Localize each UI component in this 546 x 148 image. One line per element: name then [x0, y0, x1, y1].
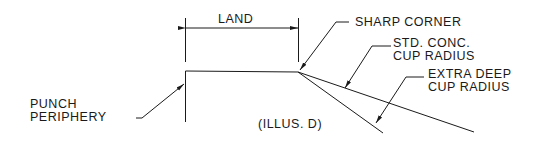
- illustration-d-diagram: LAND SHARP CORNER STD. CONC. CUP RADIUS …: [0, 0, 546, 148]
- std-conc-leader: [345, 46, 391, 88]
- land-top-line: [186, 71, 299, 72]
- sharp-corner-label: SHARP CORNER: [355, 16, 461, 29]
- sharp-corner-leader: [300, 22, 349, 70]
- std-conc-label-line2: CUP RADIUS: [393, 50, 475, 63]
- punch-periphery-label-line2: PERIPHERY: [30, 111, 107, 124]
- extra-deep-label-line2: CUP RADIUS: [428, 81, 510, 94]
- illustration-caption: (ILLUS. D): [258, 118, 322, 131]
- extra-deep-leader: [376, 77, 424, 123]
- land-label: LAND: [218, 13, 253, 26]
- punch-periphery-leader: [136, 84, 184, 118]
